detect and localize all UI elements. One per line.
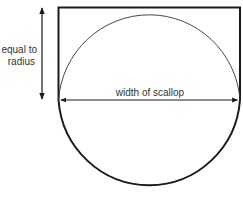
scallop-lower-arc: [59, 100, 241, 185]
scallop-diagram: equal to radius width of scallop: [0, 0, 243, 201]
radius-label-line1: equal to: [1, 44, 37, 55]
radius-label-line2: radius: [8, 56, 35, 67]
width-label: width of scallop: [115, 87, 185, 98]
